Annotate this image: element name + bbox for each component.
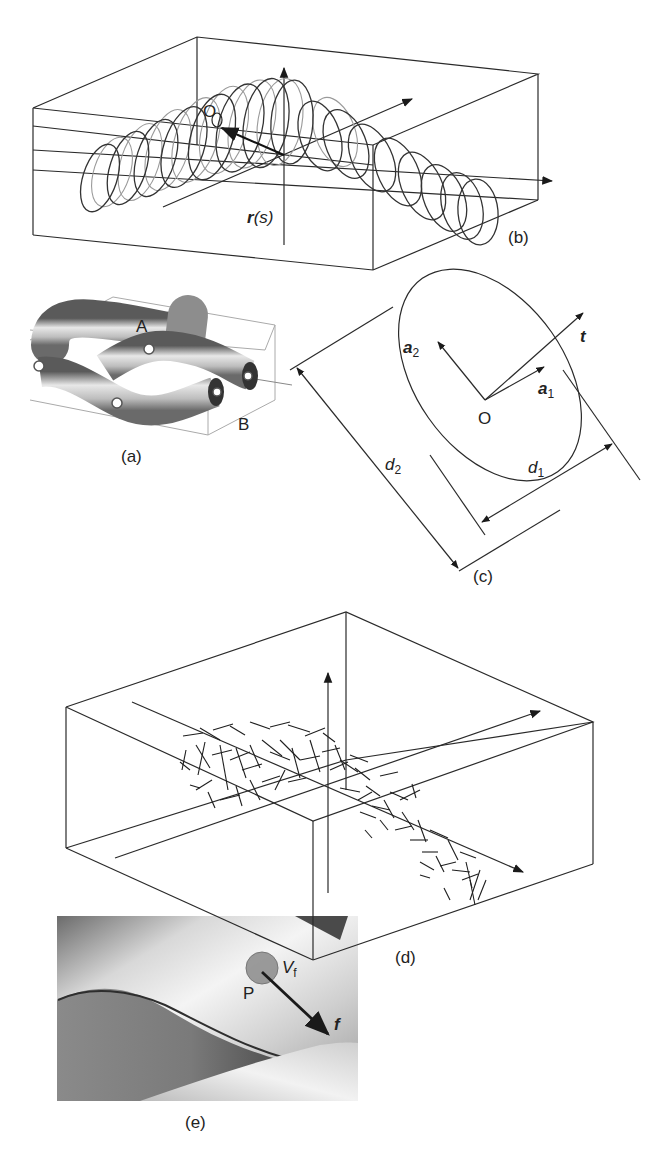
panel-d-axes [115, 673, 540, 893]
point-label-a: A [136, 317, 148, 336]
panel-b-axes [33, 68, 552, 245]
panel-d-caption: (d) [395, 948, 416, 967]
panel-b-origin-label: O [203, 102, 216, 121]
axis-a2-label: a2 [403, 338, 419, 360]
panel-d-bounding-box [66, 612, 593, 960]
panel-c-cross-section: a2 a1 t O d2 d1 (c) [290, 235, 640, 586]
figure-canvas: O r(s) (b) A [0, 0, 663, 1152]
point-p-label: P [243, 984, 254, 1003]
dimension-d1-label: d1 [528, 458, 544, 480]
panel-d-fiber-orientation-box: (d) [66, 612, 593, 967]
point-label-b: B [238, 415, 249, 434]
panel-a-caption: (a) [121, 447, 142, 466]
panel-e-caption: (e) [185, 1113, 206, 1132]
panel-b-vector-label: r(s) [247, 208, 273, 227]
dimension-d2-label: d2 [385, 455, 401, 477]
front-tube [40, 372, 215, 411]
panel-b-helix-box: O r(s) (b) [33, 37, 552, 270]
axis-a1-label: a1 [538, 379, 554, 401]
middle-tube [105, 346, 250, 375]
panel-a-tube-rendering: A B (a) [30, 297, 292, 466]
point-p-marker [246, 952, 278, 984]
panel-b-caption: (b) [508, 228, 529, 247]
panel-b-helix-coils [73, 75, 501, 247]
panel-c-caption: (c) [473, 567, 493, 586]
tangent-label: t [580, 327, 587, 346]
panel-c-origin-label: O [478, 409, 491, 428]
